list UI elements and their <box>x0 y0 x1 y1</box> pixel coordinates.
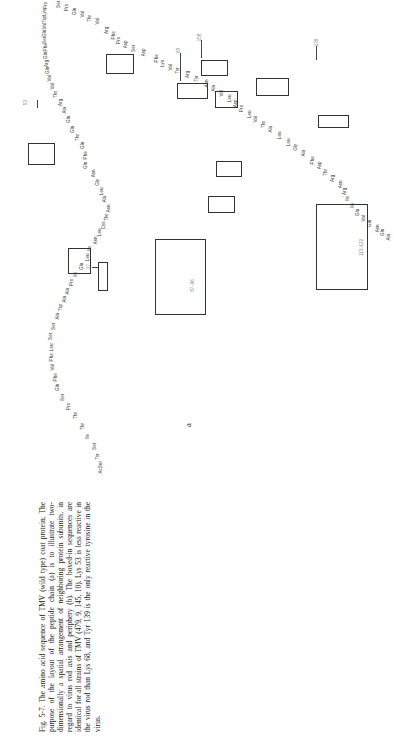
residue-label: Leu <box>287 138 292 146</box>
caption-text: Fig. 5-7. The amino acid sequence of TMV… <box>38 502 102 732</box>
residue-label: Ala <box>63 107 68 114</box>
box-glu-phe <box>256 78 289 96</box>
residue-label: Phe <box>44 43 49 51</box>
residue-label: Val <box>220 90 225 96</box>
residue-label: Ala <box>212 85 217 92</box>
residue-label: Gln <box>81 142 86 149</box>
residue-label: Trp <box>43 16 48 23</box>
box-cys-27 <box>98 262 108 291</box>
residue-label: Ala <box>387 234 392 241</box>
residue-label: Ser <box>49 333 54 340</box>
residue-label: Thr <box>324 169 329 176</box>
residue-label: Phe <box>50 353 55 361</box>
residue-label: Asp <box>234 99 239 107</box>
residue-label: Gln <box>67 116 72 123</box>
residue-label: Trp <box>59 304 64 311</box>
arrow-139 <box>316 46 317 60</box>
panel-label-a: a <box>183 423 193 427</box>
residue-label: Asn <box>94 236 99 244</box>
residue-label: Arg <box>105 27 110 34</box>
residue-label: Leu <box>98 228 103 236</box>
residue-label: Tyr <box>96 453 101 459</box>
residue-label: Ile <box>88 246 93 251</box>
residue-label: Arg <box>343 188 348 195</box>
residue-label: Val <box>48 75 53 81</box>
residue-label: Leu <box>50 343 55 351</box>
residue-label: Gly <box>294 144 299 151</box>
residue-label: Ala <box>269 126 274 133</box>
residue-label: Lys <box>161 60 166 67</box>
residue-label: Asp <box>318 161 323 169</box>
residue-label: Gly <box>96 179 101 186</box>
residue-label: Glu <box>368 220 373 227</box>
box-glu-leu <box>318 115 349 128</box>
residue-label: Asn <box>107 204 112 212</box>
figure-caption: Fig. 5-7. The amino acid sequence of TMV… <box>38 502 134 732</box>
residue-label: Pro <box>44 2 49 9</box>
residue-label: Asn <box>92 169 97 177</box>
residue-label: Gln <box>71 126 76 133</box>
residue-label: Gln <box>56 384 61 391</box>
residue-label: Leu <box>228 94 233 102</box>
residue-label: Arg <box>186 71 191 78</box>
box-gln-phe-ser <box>28 143 55 165</box>
residue-label: Ser <box>93 443 98 450</box>
residue-label: Thr <box>105 214 110 221</box>
box-ala-pro <box>201 60 228 76</box>
residue-label: Pro <box>67 403 72 410</box>
arrow-27 <box>92 267 98 268</box>
box-leu-ala <box>208 196 235 213</box>
residue-label: Ala <box>66 288 71 295</box>
residue-label: Thr <box>262 121 267 128</box>
residue-label: Thr <box>81 423 86 430</box>
box-val-leu-pro <box>216 161 242 177</box>
residue-label: Ala <box>302 150 307 157</box>
residue-label: Gln <box>43 30 48 37</box>
residue-label: Asn <box>205 79 210 87</box>
residue-label: Thr <box>74 412 79 419</box>
residue-label: Leu <box>248 110 253 118</box>
residue-label: Lys <box>43 9 48 16</box>
marker-139: 139 <box>314 39 319 47</box>
residue-label: Arg <box>331 175 336 182</box>
figure-tmv-sequence: 87–96 113–122 27 53 68 139 158 AcSerTyrS… <box>0 0 394 740</box>
box-label-87-96: 87–96 <box>190 279 195 292</box>
residue-label: Pro <box>65 4 70 11</box>
residue-label: Val <box>43 23 48 29</box>
residue-label: Thr <box>54 91 59 98</box>
residue-label: Leu <box>86 253 91 261</box>
residue-label: Ser <box>43 37 48 44</box>
residue-label: Ala <box>103 196 108 203</box>
residue-label: Tyr <box>195 75 200 81</box>
residue-label: Asp <box>124 40 129 48</box>
residue-label: Ala <box>56 313 61 320</box>
residue-label: Pro <box>240 105 245 112</box>
residue-label: Gln <box>44 52 49 59</box>
residue-label: Ile <box>351 203 356 208</box>
residue-label: Ser <box>61 394 66 401</box>
residue-label: AcSer <box>99 461 104 474</box>
box-arg-phe-pro <box>106 54 134 74</box>
residue-label: Ile <box>86 434 91 439</box>
marker-53: 53 <box>23 100 28 105</box>
arrow-158 <box>201 40 202 58</box>
residue-label: Pro <box>70 279 75 286</box>
residue-label: Thr <box>88 15 93 22</box>
residue-label: Leu <box>278 131 283 139</box>
residue-label: Phe <box>311 156 316 164</box>
residue-label: Gln <box>73 8 78 15</box>
box-87-96 <box>155 239 206 315</box>
box-label-113-122: 113–122 <box>359 239 364 256</box>
residue-label: Val <box>254 116 259 122</box>
residue-label: Pro <box>117 37 122 44</box>
residue-label: Cys <box>102 221 107 229</box>
residue-label: Arg <box>59 99 64 106</box>
residue-label: Val <box>81 11 86 17</box>
residue-label: Val <box>169 64 174 70</box>
residue-label: Phe <box>54 373 59 381</box>
residue-label: Arg <box>45 60 50 67</box>
residue-label: Ile <box>346 196 351 201</box>
residue-label: Ala <box>63 296 68 303</box>
residue-label: Gln <box>46 67 51 74</box>
residue-label: Val <box>51 83 56 89</box>
